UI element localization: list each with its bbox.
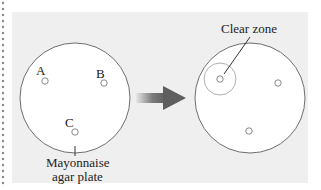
colony-b-after bbox=[275, 80, 281, 86]
before-plate bbox=[20, 43, 130, 156]
after-plate bbox=[195, 37, 305, 153]
colony-label-a: A bbox=[36, 64, 45, 78]
colony-a-after bbox=[217, 76, 223, 82]
caption-line-2: agar plate bbox=[52, 170, 103, 184]
colony-label-b: B bbox=[96, 67, 105, 81]
clear-zone-label: Clear zone bbox=[221, 22, 277, 36]
caption-line-1: Mayonnaise bbox=[46, 156, 110, 170]
arrow-right-icon bbox=[136, 86, 186, 110]
colony-label-c: C bbox=[65, 116, 74, 130]
colony-a bbox=[42, 78, 48, 84]
colony-c-after bbox=[246, 128, 252, 134]
